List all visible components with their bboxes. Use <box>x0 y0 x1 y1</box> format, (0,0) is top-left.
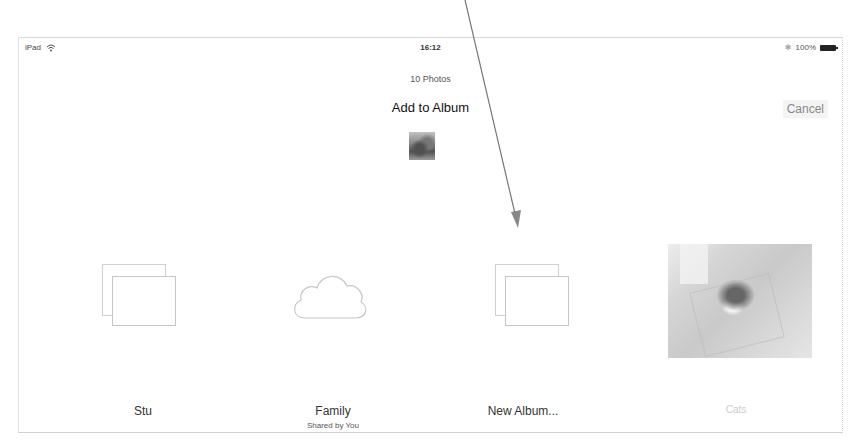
album-label: Family <box>243 404 423 418</box>
album-item-cats[interactable]: Cats <box>646 238 826 434</box>
ipad-screen: iPad 16:12 ✱ 100% 10 Photos Add to Album… <box>18 37 843 433</box>
photo-count: 10 Photos <box>19 74 842 84</box>
icloud-shared-icon <box>289 266 371 322</box>
bluetooth-icon: ✱ <box>785 43 792 52</box>
album-item-family[interactable]: Family Shared by You <box>243 238 423 434</box>
status-right: ✱ 100% <box>785 43 836 52</box>
cancel-button[interactable]: Cancel <box>783 100 828 118</box>
album-item-new-album[interactable]: New Album... <box>433 238 613 434</box>
album-label: Stu <box>53 404 233 418</box>
status-bar: iPad 16:12 ✱ 100% <box>19 38 842 58</box>
album-label: New Album... <box>433 404 613 418</box>
selected-photos-preview <box>409 132 435 160</box>
album-sublabel: Shared by You <box>243 421 423 430</box>
page-title: Add to Album <box>19 100 842 115</box>
album-stack-icon <box>495 264 577 334</box>
battery-percent: 100% <box>796 43 816 52</box>
album-list: Stu Family Shared by You New Album... Ca… <box>19 238 842 434</box>
album-label: Cats <box>646 404 826 415</box>
album-stack-icon <box>102 264 184 334</box>
battery-full-icon <box>820 45 836 51</box>
status-time: 16:12 <box>19 43 842 52</box>
album-item-stu[interactable]: Stu <box>53 238 233 434</box>
album-photo-thumbnail <box>668 244 812 358</box>
